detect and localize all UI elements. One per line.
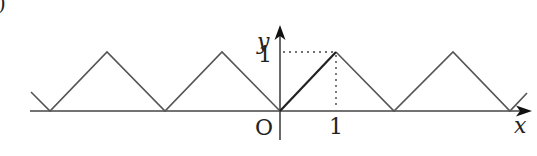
x-tick-label: 1 [329,114,343,139]
triangle-wave-diagram: ) x y 1 O 1 [0,0,537,156]
corner-mark: ) [0,0,6,15]
triangle-wave-curve [31,52,280,111]
x-axis-label: x [514,113,527,138]
y-tick-label: 1 [258,42,272,67]
origin-label: O [255,115,273,140]
triangle-wave-curve-right [336,52,527,111]
highlighted-segment [280,52,336,111]
